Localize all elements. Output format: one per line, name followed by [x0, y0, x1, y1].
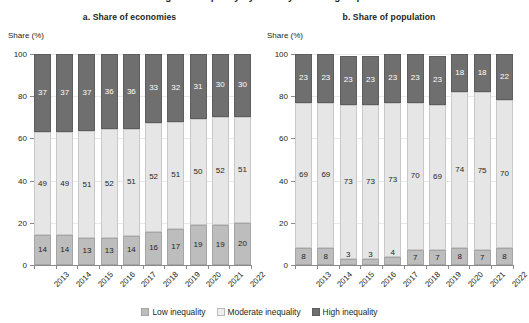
- bar-segment-low[interactable]: 7: [429, 250, 446, 265]
- bar-value-label: 37: [82, 89, 91, 97]
- bar-segment-low[interactable]: 20: [234, 223, 251, 265]
- bar-segment-low[interactable]: 19: [190, 225, 207, 265]
- bar-value-label: 23: [321, 74, 330, 82]
- legend-item-low[interactable]: Low inequality: [141, 307, 205, 317]
- bar-segment-high[interactable]: 23: [429, 56, 446, 105]
- bar-2017[interactable]: 23734: [384, 54, 401, 265]
- bar-2022[interactable]: 22708: [496, 54, 513, 265]
- bar-2014[interactable]: 23698: [317, 54, 334, 265]
- x-axis-tick: [121, 265, 122, 269]
- legend-item-high[interactable]: High inequality: [312, 307, 378, 317]
- bar-segment-moderate[interactable]: 52: [145, 123, 162, 232]
- bar-segment-high[interactable]: 37: [34, 54, 51, 132]
- bar-segment-high[interactable]: 31: [190, 54, 207, 119]
- bar-segment-low[interactable]: 16: [145, 232, 162, 265]
- bar-segment-high[interactable]: 18: [474, 54, 491, 92]
- bar-2016[interactable]: 23733: [362, 54, 379, 265]
- bar-segment-high[interactable]: 30: [234, 54, 251, 117]
- bar-2020[interactable]: 18748: [451, 54, 468, 265]
- bar-2014[interactable]: 374914: [56, 54, 73, 265]
- bar-segment-low[interactable]: 14: [34, 235, 51, 265]
- x-axis-label-2016: 2016: [118, 270, 137, 289]
- bar-segment-high[interactable]: 36: [123, 54, 140, 129]
- bar-segment-high[interactable]: 36: [101, 54, 118, 129]
- y-axis-tick-label: 0: [284, 261, 288, 270]
- bar-segment-low[interactable]: 17: [167, 229, 184, 265]
- bar-segment-low[interactable]: 19: [212, 225, 229, 265]
- bar-segment-moderate[interactable]: 70: [496, 100, 513, 248]
- bar-2019[interactable]: 325117: [167, 54, 184, 265]
- bar-segment-moderate[interactable]: 73: [340, 105, 357, 259]
- panel-b-title: b. Share of population: [259, 12, 519, 22]
- bar-segment-moderate[interactable]: 51: [78, 131, 95, 238]
- bar-segment-high[interactable]: 30: [212, 54, 229, 117]
- bar-2013[interactable]: 23698: [295, 54, 312, 265]
- bar-2021[interactable]: 18757: [474, 54, 491, 265]
- bar-segment-moderate[interactable]: 69: [317, 103, 334, 249]
- bar-segment-high[interactable]: 23: [384, 54, 401, 103]
- bar-segment-moderate[interactable]: 74: [451, 92, 468, 248]
- bar-segment-high[interactable]: 37: [78, 54, 95, 131]
- y-axis-tick-label: 20: [18, 218, 27, 227]
- bar-value-label: 4: [391, 249, 395, 257]
- bar-segment-moderate[interactable]: 69: [295, 103, 312, 249]
- bar-segment-low[interactable]: 4: [384, 257, 401, 265]
- bar-2018[interactable]: 335216: [145, 54, 162, 265]
- bar-value-label: 49: [60, 180, 69, 188]
- bar-segment-high[interactable]: 33: [145, 54, 162, 123]
- bar-2018[interactable]: 23707: [407, 54, 424, 265]
- bar-segment-high[interactable]: 23: [407, 54, 424, 103]
- bar-segment-low[interactable]: 13: [101, 238, 118, 265]
- bar-segment-high[interactable]: 22: [496, 54, 513, 100]
- bar-segment-moderate[interactable]: 52: [101, 129, 118, 238]
- bar-value-label: 23: [366, 76, 375, 84]
- x-axis-tick: [404, 265, 405, 269]
- y-axis-tick-label: 60: [18, 134, 27, 143]
- y-axis-tick-label: 80: [279, 92, 288, 101]
- x-axis-label-2015: 2015: [357, 270, 376, 289]
- bar-2019[interactable]: 23697: [429, 54, 446, 265]
- bar-2020[interactable]: 315019: [190, 54, 207, 265]
- x-axis-label-2022: 2022: [510, 270, 529, 289]
- bar-segment-low[interactable]: 8: [496, 248, 513, 265]
- bar-2015[interactable]: 375113: [78, 54, 95, 265]
- bar-segment-moderate[interactable]: 51: [167, 122, 184, 230]
- bar-segment-low[interactable]: 8: [451, 248, 468, 265]
- bar-segment-moderate[interactable]: 49: [56, 132, 73, 235]
- bar-value-label: 33: [149, 84, 158, 92]
- bar-segment-low[interactable]: 13: [78, 238, 95, 265]
- bar-segment-high[interactable]: 23: [317, 54, 334, 103]
- legend-item-moderate[interactable]: Moderate inequality: [217, 307, 301, 317]
- bar-segment-moderate[interactable]: 50: [190, 119, 207, 225]
- bar-segment-moderate[interactable]: 75: [474, 92, 491, 250]
- bar-segment-moderate[interactable]: 73: [362, 105, 379, 259]
- bar-segment-high[interactable]: 23: [340, 56, 357, 105]
- bar-2013[interactable]: 374914: [34, 54, 51, 265]
- bar-segment-low[interactable]: 14: [56, 235, 73, 265]
- bar-segment-low[interactable]: 7: [407, 250, 424, 265]
- bar-2015[interactable]: 23733: [340, 54, 357, 265]
- x-axis-tick: [295, 265, 296, 269]
- bar-segment-moderate[interactable]: 51: [234, 117, 251, 224]
- bar-segment-high[interactable]: 32: [167, 54, 184, 122]
- bar-segment-high[interactable]: 18: [451, 54, 468, 92]
- bar-segment-moderate[interactable]: 73: [384, 103, 401, 257]
- bar-segment-high[interactable]: 37: [56, 54, 73, 132]
- bar-segment-moderate[interactable]: 49: [34, 132, 51, 235]
- bar-2016[interactable]: 365213: [101, 54, 118, 265]
- bar-segment-high[interactable]: 23: [362, 56, 379, 105]
- bar-segment-moderate[interactable]: 70: [407, 103, 424, 251]
- bar-segment-low[interactable]: 8: [295, 248, 312, 265]
- bar-segment-high[interactable]: 23: [295, 54, 312, 103]
- bar-2021[interactable]: 305219: [212, 54, 229, 265]
- bar-2017[interactable]: 365114: [123, 54, 140, 265]
- bar-segment-low[interactable]: 7: [474, 250, 491, 265]
- bar-2022[interactable]: 305120: [234, 54, 251, 265]
- bar-segment-low[interactable]: 8: [317, 248, 334, 265]
- bar-segment-moderate[interactable]: 69: [429, 105, 446, 251]
- moderate-swatch-icon: [217, 308, 225, 316]
- bar-value-label: 52: [149, 173, 158, 181]
- bar-segment-moderate[interactable]: 52: [212, 117, 229, 226]
- bar-segment-low[interactable]: 14: [123, 236, 140, 265]
- bar-segment-moderate[interactable]: 51: [123, 129, 140, 236]
